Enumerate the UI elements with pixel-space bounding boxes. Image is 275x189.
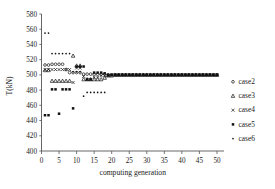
x-tick-label: 40 bbox=[178, 157, 186, 165]
data-point bbox=[61, 68, 64, 71]
data-point bbox=[125, 74, 127, 76]
data-point bbox=[111, 74, 113, 76]
data-point bbox=[156, 74, 158, 76]
data-point bbox=[90, 92, 92, 94]
data-point bbox=[192, 74, 194, 76]
legend-marker-dot-icon bbox=[232, 138, 234, 140]
series-case6 bbox=[44, 32, 218, 97]
chart-canvas: 400420440460480500520540560580 051015202… bbox=[0, 0, 275, 189]
data-point bbox=[121, 74, 123, 76]
data-point bbox=[118, 74, 120, 76]
data-point bbox=[100, 71, 103, 74]
data-point bbox=[75, 65, 78, 68]
data-point bbox=[232, 123, 235, 126]
data-point bbox=[232, 138, 234, 140]
data-point bbox=[93, 92, 95, 94]
data-point bbox=[199, 74, 201, 76]
data-point bbox=[128, 74, 130, 76]
x-tick-label: 25 bbox=[126, 157, 134, 165]
x-tick-label: 45 bbox=[196, 157, 204, 165]
data-point bbox=[114, 74, 116, 76]
data-point bbox=[82, 65, 85, 68]
data-point bbox=[104, 92, 106, 94]
data-point bbox=[146, 74, 148, 76]
data-point bbox=[232, 109, 235, 112]
y-tick-label: 520 bbox=[26, 56, 37, 64]
data-point bbox=[54, 68, 57, 71]
data-point bbox=[50, 79, 53, 82]
y-tick-label: 560 bbox=[26, 26, 37, 34]
data-point bbox=[174, 74, 176, 76]
data-point bbox=[51, 53, 53, 55]
data-point bbox=[216, 74, 218, 76]
data-point bbox=[58, 53, 60, 55]
data-point bbox=[185, 74, 187, 76]
x-tick-label: 15 bbox=[91, 157, 99, 165]
data-point bbox=[47, 114, 50, 117]
data-point bbox=[83, 95, 85, 97]
data-point bbox=[71, 54, 74, 57]
data-point bbox=[58, 112, 61, 115]
data-point bbox=[86, 78, 89, 81]
data-point bbox=[139, 74, 141, 76]
legend-item-case3: case3 bbox=[231, 91, 255, 100]
chart-legend: case2case3case4case5case6 bbox=[231, 77, 255, 143]
x-axis-tick-labels: 05101520253035404550 bbox=[40, 157, 221, 165]
y-tick-label: 540 bbox=[26, 41, 37, 49]
data-point bbox=[100, 74, 103, 77]
legend-item-case5: case5 bbox=[232, 120, 255, 129]
data-point bbox=[79, 65, 82, 68]
data-point bbox=[55, 53, 57, 55]
legend-marker-square-icon bbox=[232, 123, 235, 126]
x-axis-title: computing generation bbox=[100, 168, 167, 177]
y-tick-label: 460 bbox=[26, 102, 37, 110]
data-point bbox=[181, 74, 183, 76]
legend-label: case3 bbox=[239, 91, 256, 100]
x-tick-label: 20 bbox=[108, 157, 116, 165]
data-point bbox=[65, 53, 67, 55]
data-point bbox=[153, 74, 155, 76]
data-point bbox=[213, 74, 215, 76]
data-point bbox=[232, 80, 235, 83]
axis-tickmarks bbox=[39, 14, 217, 154]
data-point bbox=[69, 53, 71, 55]
y-tick-label: 400 bbox=[26, 148, 37, 156]
data-point bbox=[100, 92, 102, 94]
y-axis-title: T(kN) bbox=[5, 76, 14, 95]
data-point bbox=[171, 74, 173, 76]
data-point bbox=[202, 74, 204, 76]
data-point bbox=[79, 71, 81, 73]
data-point bbox=[51, 63, 54, 66]
data-point bbox=[96, 71, 99, 74]
data-point bbox=[86, 73, 89, 76]
legend-marker-triangle-open-icon bbox=[231, 94, 234, 97]
data-point bbox=[107, 75, 109, 77]
data-point bbox=[89, 78, 92, 81]
legend-label: case4 bbox=[239, 105, 256, 114]
data-point bbox=[58, 68, 61, 71]
data-point bbox=[54, 79, 57, 82]
legend-label: case6 bbox=[239, 134, 256, 143]
x-tick-label: 35 bbox=[161, 157, 169, 165]
data-point bbox=[178, 74, 180, 76]
data-point bbox=[48, 32, 50, 34]
data-point bbox=[68, 68, 71, 71]
data-point bbox=[44, 32, 46, 34]
data-point bbox=[188, 74, 190, 76]
data-point bbox=[72, 71, 74, 73]
x-tick-label: 0 bbox=[40, 157, 44, 165]
data-point bbox=[231, 94, 234, 97]
data-point bbox=[61, 88, 64, 91]
data-point bbox=[44, 64, 47, 67]
data-point bbox=[68, 71, 71, 74]
x-tick-label: 5 bbox=[57, 157, 61, 165]
data-point bbox=[99, 78, 102, 81]
data-point bbox=[163, 74, 165, 76]
data-point bbox=[54, 63, 57, 66]
data-point bbox=[62, 53, 64, 55]
data-point bbox=[209, 74, 211, 76]
legend-item-case4: case4 bbox=[232, 105, 256, 114]
data-point bbox=[89, 73, 92, 76]
data-points-group bbox=[43, 32, 218, 116]
y-tick-label: 500 bbox=[26, 71, 37, 79]
